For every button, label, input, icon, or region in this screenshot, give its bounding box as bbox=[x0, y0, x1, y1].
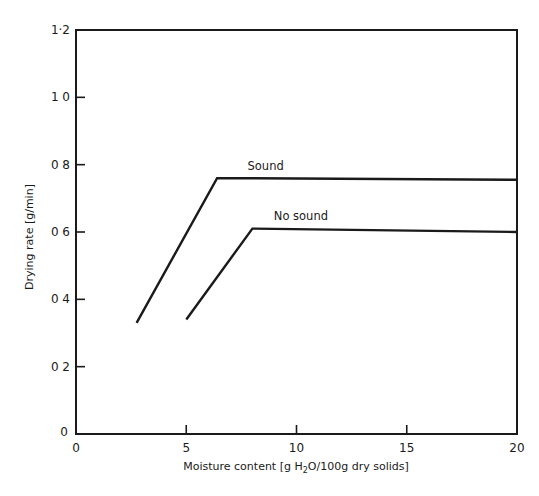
x-axis-title: Moisture content [g H2O/100g dry solids] bbox=[183, 460, 409, 475]
series-line bbox=[137, 178, 517, 323]
y-tick-label: 0 6 bbox=[51, 225, 70, 239]
y-tick-label: 0 2 bbox=[51, 360, 70, 374]
x-tick-label: 10 bbox=[289, 441, 304, 455]
x-tick-label: 15 bbox=[399, 441, 414, 455]
y-axis-ticks: 0 20 40 60 81 01·2 bbox=[51, 23, 85, 374]
y-tick-label: 1·2 bbox=[51, 23, 70, 37]
y-tick-label: 0 4 bbox=[51, 292, 70, 306]
series-label: No sound bbox=[274, 209, 328, 223]
x-tick-label: 0 bbox=[72, 441, 80, 455]
x-tick-label: 20 bbox=[509, 441, 524, 455]
y-tick-label: 1 0 bbox=[51, 90, 70, 104]
series-line bbox=[186, 229, 517, 320]
x-tick-label: 5 bbox=[182, 441, 190, 455]
y-axis-title: Drying rate [g/min] bbox=[23, 184, 36, 290]
y-tick-label: 0 8 bbox=[51, 158, 70, 172]
data-series: SoundNo sound bbox=[137, 159, 517, 323]
y-origin-label: 0 bbox=[60, 425, 68, 439]
drying-rate-chart: 0 20 40 60 81 01·2 05101520 SoundNo soun… bbox=[0, 0, 539, 496]
x-axis-ticks: 05101520 bbox=[72, 425, 524, 455]
series-label: Sound bbox=[248, 159, 284, 173]
